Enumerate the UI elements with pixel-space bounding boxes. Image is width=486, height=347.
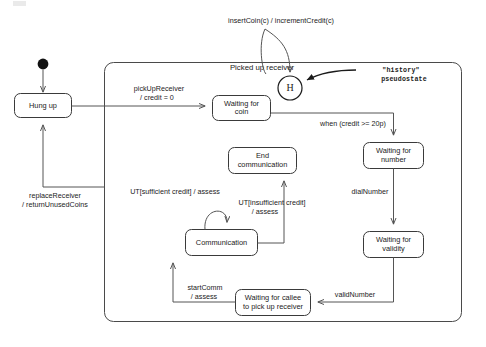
edge-composite-to-hung-up xyxy=(43,125,105,187)
transition-dial-number: dialNumber xyxy=(352,169,394,225)
transition-pick-up-receiver: pickUpReceiver / credit = 0 xyxy=(72,84,206,106)
state-hung-up-label: Hung up xyxy=(29,101,57,110)
transition-ut-sufficient-label: UT[sufficient credit] / assess xyxy=(130,187,220,196)
transition-start-comm-label-1: startComm xyxy=(187,283,222,292)
history-note-line-1: "history" xyxy=(382,67,419,74)
state-waiting-for-callee-label-2: to pick up receiver xyxy=(243,302,304,311)
history-pseudostate: H xyxy=(278,76,302,100)
edge-communication-self-loop xyxy=(205,211,227,229)
transition-replace-receiver-label-2: / returnUnusedCoins xyxy=(22,200,88,209)
transition-valid-number-label: validNumber xyxy=(335,290,376,299)
state-waiting-for-validity-label-2: validity xyxy=(382,244,405,253)
state-waiting-for-callee: Waiting for callee to pick up receiver xyxy=(236,290,311,316)
transition-when-credit: when (credit >= 20p) xyxy=(271,113,394,135)
transition-replace-receiver-label-1: replaceReceiver xyxy=(29,191,82,200)
state-waiting-for-coin: Waiting for coin xyxy=(213,96,271,121)
transition-start-comm-label-2: / assess xyxy=(191,292,218,301)
transition-start-comm: startComm / assess xyxy=(173,263,236,302)
state-machine-diagram: Picked up receiver Hung up Waiting for c… xyxy=(0,0,486,347)
transition-ut-insufficient-label-2: / assess xyxy=(252,207,279,216)
state-waiting-for-coin-label-2: coin xyxy=(235,107,249,116)
history-pseudostate-symbol: H xyxy=(286,82,293,93)
transition-ut-sufficient: UT[sufficient credit] / assess xyxy=(130,187,227,230)
initial-pseudostate xyxy=(38,59,49,92)
transition-insert-coin-label: insertCoin(c) / incrementCredit(c) xyxy=(228,16,334,25)
initial-state-dot xyxy=(38,59,49,70)
transition-replace-receiver: replaceReceiver / returnUnusedCoins xyxy=(22,125,104,209)
transition-pick-up-receiver-label-1: pickUpReceiver xyxy=(134,84,185,93)
transition-pick-up-receiver-label-2: / credit = 0 xyxy=(140,93,174,102)
state-waiting-for-number: Waiting for number xyxy=(364,143,424,169)
state-waiting-for-validity: Waiting for validity xyxy=(364,232,424,258)
transition-dial-number-label: dialNumber xyxy=(352,187,389,196)
history-note-line-2: pseudostate xyxy=(381,76,427,83)
state-hung-up: Hung up xyxy=(15,94,72,118)
history-note-leader-line xyxy=(307,70,356,80)
state-communication: Communication xyxy=(186,230,258,256)
history-note: "history" pseudostate xyxy=(307,67,427,83)
diagram-canvas: Picked up receiver Hung up Waiting for c… xyxy=(0,0,486,347)
transition-when-credit-label: when (credit >= 20p) xyxy=(319,119,386,128)
transition-valid-number: validNumber xyxy=(318,258,394,303)
transition-ut-insufficient-label-1: UT[insufficient credit] xyxy=(239,198,306,207)
state-communication-label: Communication xyxy=(196,238,247,247)
state-waiting-for-number-label-2: number xyxy=(381,155,407,164)
state-end-communication-label-2: communication xyxy=(238,160,288,169)
state-end-communication: End communication xyxy=(229,148,297,174)
